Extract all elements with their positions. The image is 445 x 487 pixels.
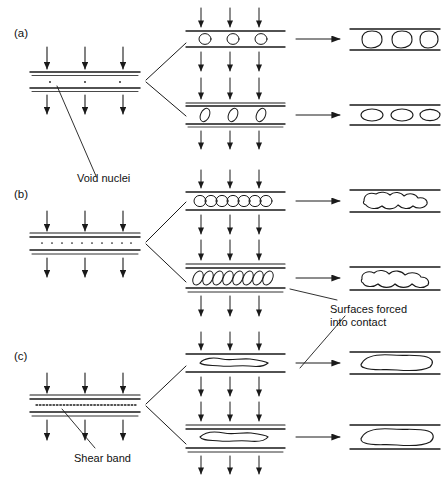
figure-caption (18, 478, 438, 487)
shear-band-label: Shear band (74, 452, 131, 464)
figure-root: (a) (b) (c) Void nuclei Shear band Surfa… (0, 0, 445, 487)
void-nuclei-leader (57, 86, 96, 176)
void-nuclei-label: Void nuclei (77, 172, 130, 184)
panel-label-c: (c) (14, 350, 27, 362)
surfaces-forced-label-line2: into contact (330, 316, 386, 328)
row-b-left-block (30, 211, 140, 277)
row-b-branches (146, 202, 186, 282)
row-c-left-block (30, 373, 140, 440)
row-a-right-top (350, 29, 440, 50)
row-c-right-bottom (350, 425, 440, 449)
surfaces-forced-label-line1: Surfaces forced (330, 303, 407, 315)
row-b-void-nuclei-dots (41, 242, 132, 244)
row-b-right-top (350, 190, 440, 212)
row-c-middle-top (186, 332, 285, 396)
panel-label-a: (a) (14, 27, 28, 39)
row-c-right-top (350, 352, 440, 374)
row-a-branches (146, 43, 186, 116)
row-c-middle-bottom (186, 402, 285, 474)
row-a-left-block (30, 47, 140, 114)
shear-band-leader (62, 409, 95, 448)
row-a-middle-bottom (186, 78, 285, 149)
row-a-middle-top (186, 8, 285, 71)
row-b-void-chain-bottom (191, 269, 276, 286)
row-b-middle-bottom (186, 240, 285, 316)
panel-label-b: (b) (14, 188, 28, 200)
surfaces-forced-leader-upper (290, 289, 337, 300)
row-b-void-chain-top (194, 195, 272, 206)
row-a-right-bottom (350, 105, 440, 125)
row-b-right-bottom (350, 267, 440, 290)
diagram-canvas (0, 0, 445, 487)
row-c-branches (146, 366, 186, 444)
row-b-middle-top (186, 170, 285, 234)
